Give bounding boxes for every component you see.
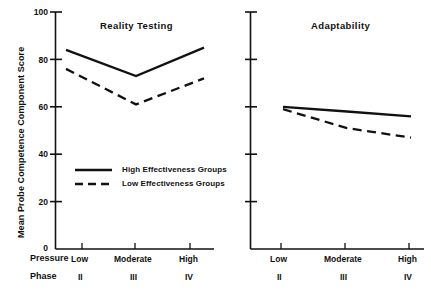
chart-canvas (0, 0, 431, 291)
xaxis-pressure-row-label: Pressure (30, 254, 69, 263)
ytick-label-80: 80 (24, 56, 48, 65)
legend-label-low: Low Effectiveness Groups (122, 180, 225, 188)
left-cat-label-high: High (179, 255, 198, 264)
left-series-low-line (66, 69, 204, 105)
ytick-label-0: 0 (24, 244, 48, 253)
left-panel-axes (50, 12, 214, 249)
right-panel-series (283, 107, 411, 138)
right-phase-label-iii: III (340, 273, 347, 282)
left-phase-label-iii: III (130, 273, 137, 282)
left-panel-title: Reality Testing (100, 21, 173, 31)
y-axis-title: Mean Probe Competence Component Score (17, 47, 26, 238)
right-series-low-line (283, 109, 411, 137)
left-phase-label-ii: II (78, 273, 83, 282)
right-cat-label-high: High (398, 255, 417, 264)
right-cat-label-moderate: Moderate (324, 255, 362, 264)
left-cat-label-moderate: Moderate (114, 255, 152, 264)
left-phase-label-iv: IV (185, 273, 193, 282)
left-series-high-line (66, 48, 204, 76)
right-phase-label-ii: II (277, 273, 282, 282)
right-cat-label-low: Low (270, 255, 287, 264)
ytick-label-40: 40 (24, 150, 48, 159)
left-cat-label-low: Low (71, 255, 88, 264)
right-phase-label-iv: IV (404, 273, 412, 282)
ytick-label-60: 60 (24, 103, 48, 112)
figure-container: 100 80 60 40 20 0 Mean Probe Competence … (0, 0, 431, 291)
xaxis-phase-row-label: Phase (30, 272, 57, 281)
legend-swatches (75, 170, 112, 184)
left-panel-series (66, 48, 204, 105)
right-panel-axes (245, 12, 424, 249)
ytick-label-100: 100 (24, 8, 48, 17)
right-panel-title: Adaptability (311, 21, 370, 31)
ytick-label-20: 20 (24, 198, 48, 207)
legend-label-high: High Effectiveness Groups (122, 166, 227, 174)
